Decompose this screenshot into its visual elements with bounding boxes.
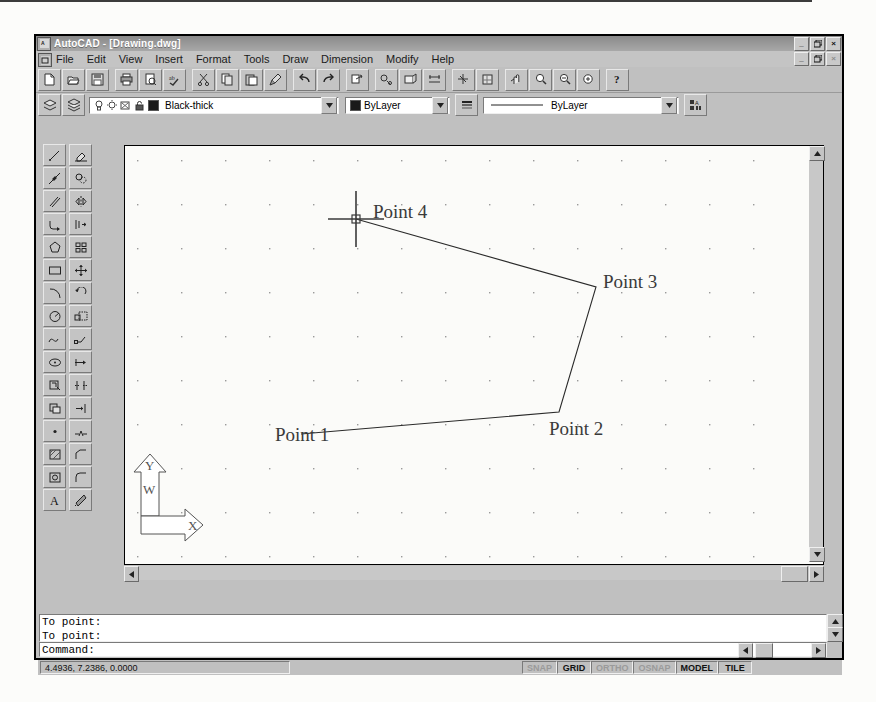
ellipse-tool[interactable] [43,351,66,373]
menu-item-format[interactable]: Format [196,53,231,65]
scroll-down-button[interactable] [809,547,825,562]
polyline-tool[interactable] [43,213,66,235]
pan-realtime-button[interactable] [505,69,528,91]
properties-button[interactable]: A [684,94,707,116]
paste-button[interactable] [240,69,263,91]
lineweight-button[interactable] [455,94,478,116]
undo-button[interactable] [293,69,316,91]
scale-tool[interactable] [69,305,92,327]
layer-states-button[interactable] [62,94,85,116]
document-minimize-button[interactable]: _ [794,52,809,66]
menu-item-edit[interactable]: Edit [87,53,106,65]
command-scroll-right-button[interactable] [811,643,826,658]
restore-button[interactable] [810,37,825,51]
status-toggle-model[interactable]: MODEL [676,661,719,674]
cut-button[interactable] [192,69,215,91]
move-tool[interactable] [69,259,92,281]
coordinate-display[interactable]: 4.4936, 7.2386, 0.0000 [40,661,290,674]
menu-item-draw[interactable]: Draw [282,53,308,65]
rotate-tool[interactable] [69,282,92,304]
extend-tool[interactable] [69,397,92,419]
status-toggle-tile[interactable]: TILE [718,661,752,674]
chamfer-tool[interactable] [69,443,92,465]
aerial-view-button[interactable] [476,69,499,91]
color-combo[interactable]: ByLayer [345,97,450,114]
multiline-tool[interactable] [43,190,66,212]
zoom-previous-button[interactable] [577,69,600,91]
multiline-text-tool[interactable]: A [43,489,66,511]
drawing-canvas[interactable]: YWX Point 1Point 2Point 3Point 4 [125,146,823,564]
erase-tool[interactable] [69,144,92,166]
region-tool[interactable] [43,466,66,488]
lengthen-tool[interactable] [69,351,92,373]
status-toggle-osnap[interactable]: OSNAP [633,661,675,674]
menu-item-tools[interactable]: Tools [244,53,270,65]
redo-button[interactable] [317,69,340,91]
distance-button[interactable] [423,69,446,91]
canvas-vertical-scrollbar[interactable] [809,146,823,562]
menu-item-file[interactable]: File [56,53,74,65]
offset-tool[interactable] [69,213,92,235]
command-scroll-down-button[interactable] [827,627,843,642]
scroll-right-button[interactable] [809,566,824,582]
break-tool[interactable] [69,420,92,442]
arc-tool[interactable] [43,282,66,304]
redraw-button[interactable] [452,69,475,91]
command-line-hscrollbar[interactable] [738,643,826,656]
menu-item-dimension[interactable]: Dimension [321,53,373,65]
color-dropdown-arrow-icon[interactable] [432,97,448,114]
help-button[interactable]: ? [606,69,629,91]
array-tool[interactable] [69,236,92,258]
menu-item-view[interactable]: View [119,53,143,65]
minimize-button[interactable]: _ [794,37,809,51]
document-close-button[interactable]: × [826,52,841,66]
spelling-button[interactable]: ab [163,69,186,91]
line-tool[interactable] [43,144,66,166]
zoom-window-button[interactable] [553,69,576,91]
status-toggle-ortho[interactable]: ORTHO [591,661,634,674]
stretch-tool[interactable] [69,328,92,350]
layers-button[interactable] [38,94,61,116]
spline-tool[interactable] [43,328,66,350]
linetype-combo[interactable]: ByLayer [483,97,679,114]
status-toggle-grid[interactable]: GRID [557,661,591,674]
polygon-tool[interactable] [43,236,66,258]
menu-item-help[interactable]: Help [431,53,454,65]
document-icon[interactable] [38,53,52,67]
command-prompt-line[interactable]: Command: [39,642,827,657]
menu-item-modify[interactable]: Modify [386,53,418,65]
copy-object-tool[interactable] [69,167,92,189]
print-button[interactable] [115,69,138,91]
document-restore-button[interactable] [810,52,825,66]
fillet-tool[interactable] [69,466,92,488]
match-properties-button[interactable] [264,69,287,91]
point-tool[interactable] [43,420,66,442]
scroll-left-button[interactable] [124,566,139,582]
print-preview-button[interactable] [139,69,162,91]
object-snap-button[interactable] [375,69,398,91]
command-scroll-left-button[interactable] [738,643,753,658]
hatch-tool[interactable] [43,443,66,465]
scroll-up-button[interactable] [809,146,825,161]
horizontal-scroll-thumb[interactable] [781,566,808,582]
insert-block-tool[interactable] [43,374,66,396]
construction-line-tool[interactable] [43,167,66,189]
layer-dropdown-arrow-icon[interactable] [321,97,337,114]
zoom-realtime-button[interactable] [529,69,552,91]
circle-tool[interactable] [43,305,66,327]
menu-item-insert[interactable]: Insert [155,53,183,65]
new-button[interactable] [38,69,61,91]
mirror-tool[interactable] [69,190,92,212]
external-reference-button[interactable] [346,69,369,91]
open-button[interactable] [62,69,85,91]
trim-tool[interactable] [69,374,92,396]
explode-tool[interactable] [69,489,92,511]
save-button[interactable] [86,69,109,91]
status-toggle-snap[interactable]: SNAP [522,661,557,674]
layer-combo[interactable]: Black-thick [89,97,339,114]
canvas-horizontal-scrollbar[interactable] [124,566,824,580]
command-history-scrollbar[interactable] [827,614,841,642]
make-block-tool[interactable] [43,397,66,419]
rectangle-tool[interactable] [43,259,66,281]
ucs-button[interactable] [399,69,422,91]
